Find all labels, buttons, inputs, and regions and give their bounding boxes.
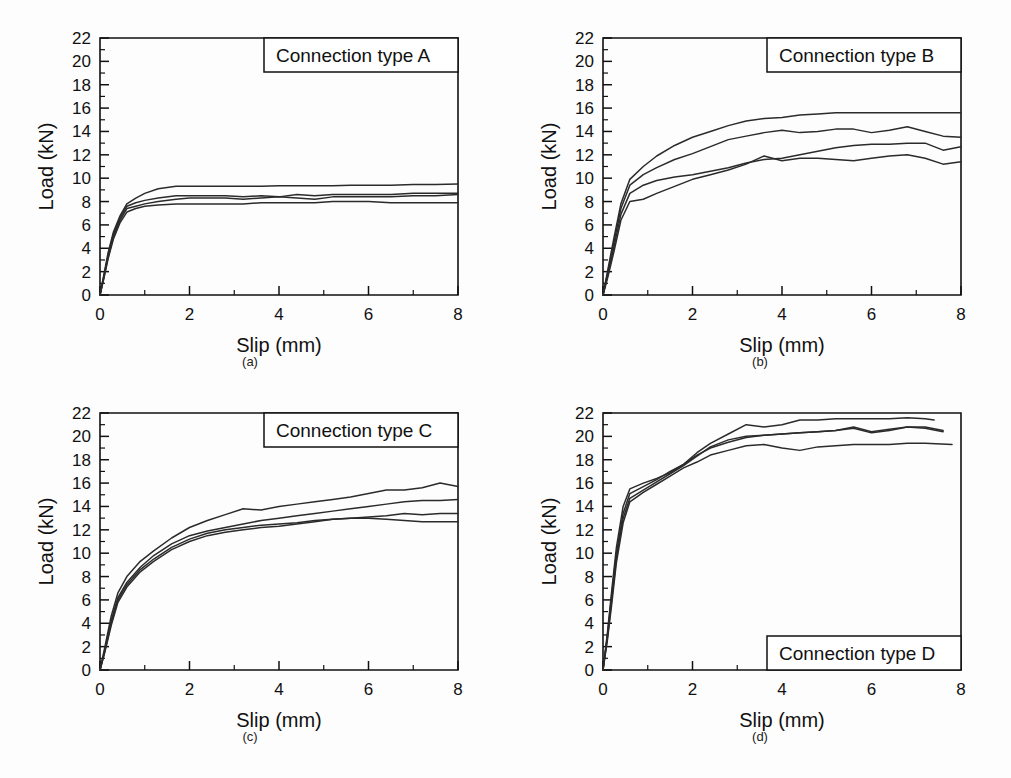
panel-c-svg: 024681012141618202202468Slip (mm)Load (k… — [0, 383, 500, 755]
x-tick-label: 8 — [956, 680, 965, 699]
plot-frame — [100, 38, 458, 295]
y-tick-label: 4 — [585, 614, 594, 633]
y-tick-label: 4 — [585, 239, 594, 258]
x-axis-title: Slip (mm) — [739, 334, 825, 356]
curve-4 — [100, 518, 458, 670]
y-tick-label: 10 — [575, 544, 594, 563]
y-tick-label: 4 — [82, 614, 91, 633]
x-tick-label: 6 — [364, 680, 373, 699]
curve-3 — [603, 427, 943, 670]
y-tick-label: 20 — [575, 427, 594, 446]
connection-type-label: Connection type B — [779, 45, 934, 66]
y-tick-label: 0 — [82, 661, 91, 680]
curve-4 — [100, 202, 458, 295]
y-tick-label: 18 — [575, 76, 594, 95]
y-tick-label: 8 — [585, 193, 594, 212]
y-tick-label: 12 — [575, 146, 594, 165]
y-tick-label: 2 — [82, 263, 91, 282]
plot-frame — [100, 413, 458, 670]
connection-type-label: Connection type C — [276, 420, 432, 441]
y-tick-label: 0 — [585, 286, 594, 305]
y-tick-label: 16 — [575, 99, 594, 118]
y-tick-label: 10 — [72, 169, 91, 188]
curve-2 — [100, 499, 458, 670]
chart-panel-b: 024681012141618202202468Slip (mm)Load (k… — [503, 8, 1003, 380]
x-axis-title: Slip (mm) — [739, 709, 825, 731]
y-tick-label: 6 — [585, 216, 594, 235]
y-tick-label: 2 — [82, 638, 91, 657]
y-tick-label: 14 — [72, 497, 91, 516]
y-tick-label: 8 — [82, 568, 91, 587]
y-tick-label: 2 — [585, 638, 594, 657]
x-tick-label: 2 — [185, 680, 194, 699]
curve-2 — [100, 193, 458, 295]
y-tick-label: 6 — [82, 591, 91, 610]
y-tick-label: 12 — [575, 521, 594, 540]
chart-panel-d: 024681012141618202202468Slip (mm)Load (k… — [503, 383, 1003, 755]
y-tick-label: 14 — [575, 122, 594, 141]
caption-a: (a) — [190, 354, 310, 369]
y-tick-label: 0 — [585, 661, 594, 680]
y-tick-label: 20 — [72, 427, 91, 446]
curve-2 — [603, 427, 943, 670]
panel-a-svg: 024681012141618202202468Slip (mm)Load (k… — [0, 8, 500, 380]
x-tick-label: 0 — [95, 680, 104, 699]
y-tick-label: 18 — [72, 76, 91, 95]
curve-1 — [100, 483, 458, 670]
curve-3 — [100, 513, 458, 670]
x-tick-label: 8 — [453, 680, 462, 699]
x-tick-label: 0 — [598, 305, 607, 324]
curve-3 — [603, 143, 961, 295]
plot-frame — [603, 413, 961, 670]
connection-type-label: Connection type D — [779, 643, 935, 664]
y-axis-title: Load (kN) — [538, 498, 560, 586]
x-tick-label: 8 — [453, 305, 462, 324]
y-tick-label: 20 — [575, 52, 594, 71]
y-tick-label: 14 — [575, 497, 594, 516]
y-axis-title: Load (kN) — [35, 498, 57, 586]
y-tick-label: 12 — [72, 146, 91, 165]
curve-1 — [603, 113, 961, 295]
x-tick-label: 4 — [777, 305, 786, 324]
x-tick-label: 6 — [867, 305, 876, 324]
x-tick-label: 4 — [777, 680, 786, 699]
y-tick-label: 10 — [575, 169, 594, 188]
connection-type-label: Connection type A — [276, 45, 431, 66]
y-tick-label: 14 — [72, 122, 91, 141]
x-tick-label: 4 — [274, 680, 283, 699]
panel-d-svg: 024681012141618202202468Slip (mm)Load (k… — [503, 383, 1003, 755]
y-tick-label: 6 — [82, 216, 91, 235]
y-tick-label: 16 — [72, 474, 91, 493]
y-tick-label: 2 — [585, 263, 594, 282]
x-tick-label: 6 — [867, 680, 876, 699]
y-tick-label: 0 — [82, 286, 91, 305]
x-axis-title: Slip (mm) — [236, 334, 322, 356]
y-tick-label: 22 — [72, 29, 91, 48]
x-tick-label: 6 — [364, 305, 373, 324]
caption-c: (c) — [190, 729, 310, 744]
chart-panel-c: 024681012141618202202468Slip (mm)Load (k… — [0, 383, 500, 755]
figure-load-slip-curves: 024681012141618202202468Slip (mm)Load (k… — [0, 0, 1011, 778]
y-tick-label: 20 — [72, 52, 91, 71]
x-tick-label: 2 — [688, 305, 697, 324]
x-tick-label: 8 — [956, 305, 965, 324]
panel-b-svg: 024681012141618202202468Slip (mm)Load (k… — [503, 8, 1003, 380]
x-tick-label: 0 — [598, 680, 607, 699]
y-tick-label: 12 — [72, 521, 91, 540]
curve-1 — [603, 418, 934, 670]
curve-1 — [100, 184, 458, 295]
curve-4 — [603, 155, 961, 295]
plot-frame — [603, 38, 961, 295]
y-tick-label: 4 — [82, 239, 91, 258]
y-tick-label: 18 — [575, 451, 594, 470]
y-tick-label: 8 — [82, 193, 91, 212]
curve-2 — [603, 127, 961, 295]
x-axis-title: Slip (mm) — [236, 709, 322, 731]
y-tick-label: 10 — [72, 544, 91, 563]
x-tick-label: 0 — [95, 305, 104, 324]
x-tick-label: 2 — [185, 305, 194, 324]
y-axis-title: Load (kN) — [35, 123, 57, 211]
x-tick-label: 4 — [274, 305, 283, 324]
curve-3 — [100, 195, 458, 295]
y-tick-label: 8 — [585, 568, 594, 587]
